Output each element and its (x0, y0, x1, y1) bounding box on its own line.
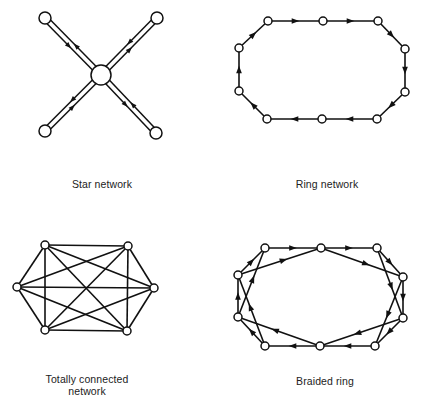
star-network-diagram (39, 12, 163, 139)
mesh-node (41, 241, 49, 249)
braid-node (316, 342, 324, 350)
ring-node (235, 87, 243, 95)
terminal-node (151, 12, 163, 24)
terminal-node (39, 12, 51, 24)
arrowhead-icon (235, 292, 241, 300)
arrowhead-icon (279, 259, 287, 264)
mesh-node (123, 327, 131, 335)
braid-node (371, 342, 379, 350)
mesh-edge (17, 245, 45, 287)
arrowhead-icon (249, 303, 254, 311)
mesh-node (13, 283, 21, 291)
ring-node (401, 88, 409, 96)
mesh-node (150, 284, 158, 292)
ring-node (264, 17, 272, 25)
terminal-node (150, 127, 162, 139)
mesh-edge (17, 287, 127, 331)
mesh-edge (128, 246, 154, 288)
arrowhead-icon (345, 245, 353, 251)
totally-connected-network-diagram (13, 241, 158, 335)
mesh-edge (45, 245, 128, 246)
braid-node (317, 244, 325, 252)
totally-connected-network-label: Totally connected network (17, 373, 157, 396)
braid-node (261, 244, 269, 252)
arrowhead-icon (347, 18, 355, 24)
arrowhead-icon (386, 310, 391, 318)
ring-node (235, 44, 243, 52)
braid-node (399, 273, 407, 281)
arrowhead-icon (289, 245, 297, 251)
arrowhead-icon (271, 329, 279, 334)
mesh-edge (45, 245, 154, 288)
arrowhead-icon (291, 116, 299, 122)
arrowhead-icon (346, 116, 354, 122)
arrowhead-icon (354, 329, 362, 334)
arrowhead-icon (400, 294, 406, 302)
braid-node (261, 342, 269, 350)
braid-node (234, 313, 242, 321)
arrowhead-icon (236, 66, 242, 74)
arrowhead-icon (249, 276, 254, 284)
arrowhead-icon (292, 18, 300, 24)
mesh-node (41, 326, 49, 334)
mesh-edge (17, 287, 154, 288)
hub-node (91, 65, 111, 85)
braided-ring-label: Braided ring (265, 375, 385, 387)
ring-node (318, 115, 326, 123)
ring-network-label: Ring network (267, 178, 387, 190)
braid-node (373, 244, 381, 252)
braid-node (234, 271, 242, 279)
mesh-edge (17, 246, 128, 287)
mesh-edge (45, 330, 127, 331)
arrowhead-icon (289, 343, 297, 349)
network-diagrams (0, 0, 424, 396)
arrowhead-icon (362, 260, 370, 265)
arrowhead-icon (402, 67, 408, 75)
terminal-node (39, 125, 51, 137)
ring-network-diagram (235, 17, 409, 123)
arrowhead-icon (344, 343, 352, 349)
ring-node (263, 115, 271, 123)
ring-node (373, 115, 381, 123)
ring-node (319, 17, 327, 25)
arrowhead-icon (387, 282, 392, 290)
mesh-edge (45, 288, 154, 330)
braid-node (399, 314, 407, 322)
mesh-edge (127, 288, 154, 331)
star-network-label: Star network (42, 178, 162, 190)
totally-connected-label-line1: Totally connected (17, 373, 157, 385)
ring-node (374, 17, 382, 25)
ring-node (401, 45, 409, 53)
totally-connected-label-line2: network (17, 385, 157, 396)
braided-ring-diagram (234, 244, 407, 350)
mesh-node (124, 242, 132, 250)
